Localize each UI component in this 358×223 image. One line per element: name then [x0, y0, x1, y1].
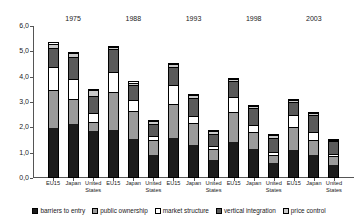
bar-united-states-1988[interactable] — [148, 120, 159, 178]
y-axis-tick-label: 5,0 — [19, 47, 29, 55]
bar-segment-vertical-integration — [169, 67, 178, 86]
bar-segment-barriers-to-entry — [189, 145, 198, 177]
year-group-label-1988: 1988 — [113, 14, 153, 24]
legend-item-public-ownership[interactable]: public ownership — [92, 207, 148, 215]
bar-eu15-1975[interactable] — [48, 42, 59, 178]
year-group-label-1998: 1998 — [234, 14, 274, 24]
stacked-bar-chart: 19751988199319982003 0,01,02,03,04,05,06… — [0, 0, 358, 223]
bar-segment-vertical-integration — [49, 48, 58, 67]
bar-segment-market-structure — [49, 67, 58, 89]
bar-segment-market-structure — [109, 72, 118, 92]
bar-segment-vertical-integration — [149, 124, 158, 136]
bars-layer — [33, 26, 354, 178]
year-group-label-1975: 1975 — [53, 14, 93, 24]
year-group-label-2003: 2003 — [294, 14, 334, 24]
y-axis-tick-label: 0,0 — [19, 174, 29, 182]
bar-segment-market-structure — [129, 100, 138, 110]
bar-segment-public-ownership — [249, 132, 258, 150]
bar-segment-barriers-to-entry — [309, 155, 318, 177]
bar-segment-vertical-integration — [249, 108, 258, 125]
bar-segment-barriers-to-entry — [209, 160, 218, 177]
bar-japan-1988[interactable] — [128, 81, 139, 178]
bar-segment-vertical-integration — [329, 141, 338, 154]
legend-label: barriers to entry — [40, 207, 85, 215]
bar-segment-market-structure — [189, 116, 198, 123]
bar-segment-market-structure — [169, 85, 178, 103]
bar-segment-public-ownership — [49, 90, 58, 128]
bar-japan-1975[interactable] — [68, 52, 79, 178]
bar-segment-vertical-integration — [269, 138, 278, 153]
bar-segment-barriers-to-entry — [229, 142, 238, 177]
bar-segment-public-ownership — [169, 104, 178, 139]
bar-segment-market-structure — [89, 113, 98, 122]
legend-item-price-control[interactable]: price control — [283, 207, 326, 215]
bar-segment-public-ownership — [289, 127, 298, 150]
legend-swatch-icon — [32, 208, 38, 214]
x-axis-category-label: United States — [320, 180, 348, 194]
bar-japan-2003[interactable] — [308, 112, 319, 178]
legend-label: price control — [291, 207, 326, 215]
bar-segment-barriers-to-entry — [109, 130, 118, 177]
bar-segment-market-structure — [289, 115, 298, 127]
bar-segment-public-ownership — [69, 99, 78, 124]
bar-united-states-1993[interactable] — [208, 130, 219, 178]
bar-segment-barriers-to-entry — [289, 150, 298, 177]
bar-segment-barriers-to-entry — [249, 149, 258, 177]
legend-swatch-icon — [216, 208, 222, 214]
bar-segment-barriers-to-entry — [129, 139, 138, 177]
legend-label: public ownership — [100, 207, 148, 215]
bar-eu15-1988[interactable] — [108, 46, 119, 178]
bar-segment-barriers-to-entry — [89, 131, 98, 177]
y-axis-tick: 0,0 — [33, 178, 34, 179]
legend-item-barriers-to-entry[interactable]: barriers to entry — [32, 207, 85, 215]
year-group-label-band: 19751988199319982003 — [30, 14, 354, 26]
bar-eu15-2003[interactable] — [288, 99, 299, 178]
bar-segment-vertical-integration — [229, 81, 238, 96]
legend-item-market-structure[interactable]: market structure — [155, 207, 209, 215]
bar-segment-barriers-to-entry — [49, 128, 58, 177]
bar-segment-market-structure — [309, 132, 318, 139]
y-axis-tick-label: 4,0 — [19, 73, 29, 81]
bar-segment-public-ownership — [229, 112, 238, 142]
y-axis-tick-label: 6,0 — [19, 22, 29, 30]
bar-united-states-2003[interactable] — [328, 139, 339, 178]
bar-segment-vertical-integration — [209, 134, 218, 146]
legend-label: market structure — [163, 207, 209, 215]
legend-swatch-icon — [92, 208, 98, 214]
legend-swatch-icon — [283, 208, 289, 214]
bar-segment-vertical-integration — [289, 102, 298, 115]
chart-legend: barriers to entrypublic ownershipmarket … — [0, 207, 358, 215]
year-group-label-1993: 1993 — [174, 14, 214, 24]
bar-segment-public-ownership — [329, 156, 338, 166]
bar-japan-1998[interactable] — [248, 105, 259, 178]
bar-eu15-1998[interactable] — [228, 78, 239, 178]
bar-segment-market-structure — [249, 125, 258, 132]
bar-segment-market-structure — [69, 79, 78, 99]
bar-segment-public-ownership — [149, 140, 158, 155]
bar-segment-barriers-to-entry — [149, 155, 158, 178]
bar-segment-vertical-integration — [129, 85, 138, 100]
bar-segment-vertical-integration — [309, 115, 318, 132]
bar-segment-public-ownership — [89, 122, 98, 131]
bar-segment-barriers-to-entry — [269, 163, 278, 178]
bar-segment-public-ownership — [109, 92, 118, 129]
y-axis-tick-label: 1,0 — [19, 149, 29, 157]
legend-label: vertical integration — [224, 207, 276, 215]
x-axis-category-labels: EU15JapanUnited StatesEU15JapanUnited St… — [33, 180, 354, 202]
legend-item-vertical-integration[interactable]: vertical integration — [216, 207, 276, 215]
plot-area: 0,01,02,03,04,05,06,0 — [33, 26, 354, 178]
bar-japan-1993[interactable] — [188, 94, 199, 178]
bar-united-states-1975[interactable] — [88, 89, 99, 178]
bar-segment-vertical-integration — [89, 96, 98, 113]
bar-segment-public-ownership — [189, 123, 198, 145]
bar-segment-public-ownership — [269, 155, 278, 163]
bar-united-states-1998[interactable] — [268, 134, 279, 178]
bar-segment-public-ownership — [129, 111, 138, 139]
bar-segment-barriers-to-entry — [169, 138, 178, 177]
bar-segment-vertical-integration — [109, 49, 118, 71]
bar-eu15-1993[interactable] — [168, 63, 179, 178]
bar-segment-vertical-integration — [69, 57, 78, 79]
y-axis-tick-label: 3,0 — [19, 98, 29, 106]
bar-segment-public-ownership — [309, 140, 318, 155]
legend-swatch-icon — [155, 208, 161, 214]
